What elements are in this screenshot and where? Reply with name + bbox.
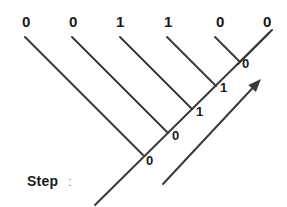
input-bit-t4: 0	[216, 14, 224, 29]
node-bit-n2: 1	[196, 105, 203, 118]
branch-line-2	[120, 37, 192, 109]
node-bit-n0: 0	[242, 57, 249, 70]
branch-line-3	[167, 37, 216, 86]
node-bit-n3: 0	[172, 129, 179, 142]
node-bit-n4: 0	[146, 154, 153, 167]
branch-line-4	[215, 37, 240, 62]
branch-line-0	[25, 37, 143, 155]
input-bit-t5: 0	[263, 14, 271, 29]
node-bit-n1: 1	[220, 81, 227, 94]
input-bit-t0: 0	[22, 14, 30, 29]
input-bit-t1: 0	[69, 14, 77, 29]
step-caption-text: Step	[27, 174, 58, 188]
branch-line-1	[72, 37, 168, 133]
branch-lines-group	[25, 33, 269, 155]
figure-canvas: 001100 01100 Step :	[0, 0, 287, 207]
input-bit-t2: 1	[116, 14, 124, 29]
step-caption-separator: :	[68, 175, 72, 188]
input-bit-t3: 1	[164, 14, 172, 29]
